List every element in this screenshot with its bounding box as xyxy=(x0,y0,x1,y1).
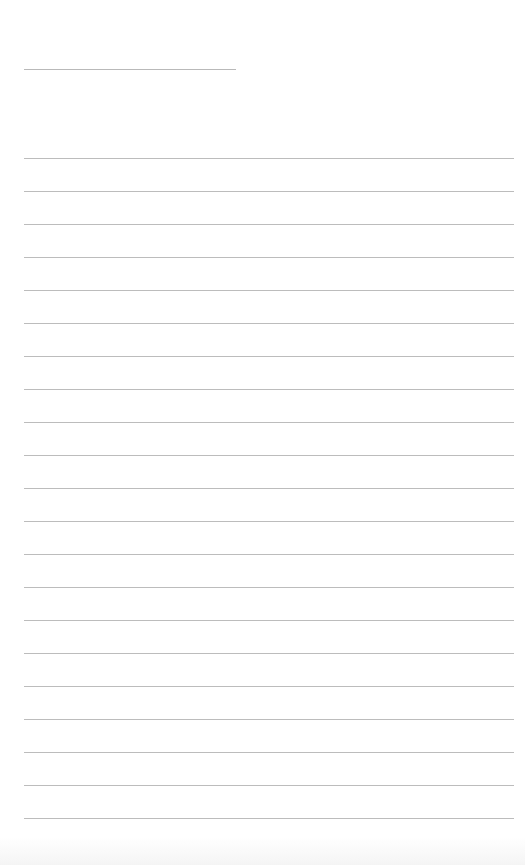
ruled-line xyxy=(24,191,514,192)
ruled-line xyxy=(24,521,514,522)
ruled-line xyxy=(24,323,514,324)
ruled-line xyxy=(24,257,514,258)
ruled-line xyxy=(24,653,514,654)
ruled-line xyxy=(24,356,514,357)
ruled-line xyxy=(24,818,514,819)
header-rule-line xyxy=(24,69,236,70)
ruled-line xyxy=(24,686,514,687)
ruled-line xyxy=(24,158,514,159)
ruled-line xyxy=(24,224,514,225)
scan-shadow xyxy=(0,837,525,865)
ruled-line xyxy=(24,752,514,753)
ruled-line xyxy=(24,422,514,423)
ruled-line xyxy=(24,554,514,555)
ruled-line xyxy=(24,488,514,489)
ruled-line xyxy=(24,290,514,291)
ruled-line xyxy=(24,389,514,390)
ruled-line xyxy=(24,455,514,456)
ruled-line xyxy=(24,719,514,720)
lined-page xyxy=(0,0,525,865)
ruled-line xyxy=(24,587,514,588)
ruled-line xyxy=(24,620,514,621)
ruled-line xyxy=(24,785,514,786)
